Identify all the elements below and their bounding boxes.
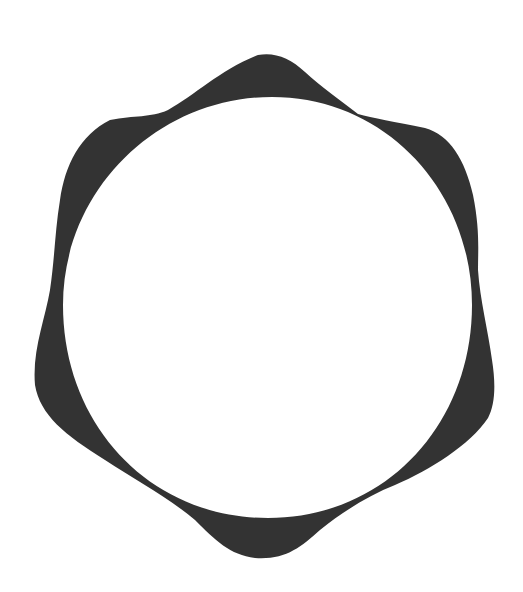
six-lobed-ring bbox=[35, 54, 495, 558]
ring-figure bbox=[0, 0, 523, 592]
